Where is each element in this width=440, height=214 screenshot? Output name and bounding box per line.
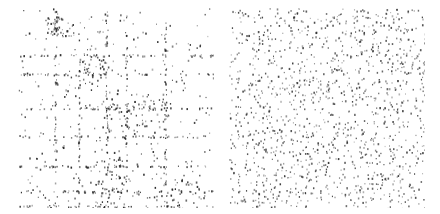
nonzero-entry: [321, 27, 323, 29]
nonzero-entry: [345, 196, 346, 197]
nonzero-entry: [286, 170, 287, 171]
nonzero-entry: [306, 118, 308, 120]
nonzero-entry: [235, 147, 236, 149]
nonzero-entry: [386, 127, 387, 128]
nonzero-entry: [408, 72, 409, 74]
nonzero-entry: [312, 132, 313, 134]
nonzero-entry: [95, 108, 96, 110]
nonzero-entry: [289, 119, 290, 120]
nonzero-entry: [412, 56, 413, 57]
nonzero-entry: [350, 134, 351, 136]
nonzero-entry: [343, 54, 344, 55]
nonzero-entry: [272, 88, 273, 90]
nonzero-entry: [127, 56, 128, 57]
nonzero-entry: [362, 40, 363, 41]
nonzero-entry: [279, 191, 281, 193]
nonzero-entry: [52, 95, 53, 96]
nonzero-entry: [246, 148, 247, 149]
nonzero-entry: [379, 107, 381, 109]
nonzero-entry: [392, 66, 393, 67]
nonzero-entry: [157, 158, 158, 160]
nonzero-entry: [97, 80, 98, 82]
nonzero-entry: [383, 25, 385, 27]
nonzero-entry: [121, 75, 122, 76]
nonzero-entry: [163, 137, 164, 138]
nonzero-entry: [119, 178, 120, 179]
nonzero-entry: [389, 163, 390, 165]
nonzero-entry: [381, 184, 382, 186]
nonzero-entry: [275, 97, 276, 98]
nonzero-entry: [305, 79, 306, 80]
nonzero-entry: [330, 21, 331, 23]
nonzero-entry: [93, 55, 94, 57]
nonzero-entry: [76, 75, 77, 77]
nonzero-entry: [187, 181, 188, 183]
nonzero-entry: [258, 31, 260, 33]
nonzero-entry: [292, 63, 293, 65]
nonzero-entry: [76, 207, 77, 208]
nonzero-entry: [295, 90, 296, 91]
nonzero-entry: [56, 82, 58, 84]
nonzero-entry: [85, 83, 86, 84]
nonzero-entry: [146, 205, 147, 206]
nonzero-entry: [199, 109, 200, 111]
nonzero-entry: [346, 21, 347, 23]
nonzero-entry: [253, 134, 254, 136]
nonzero-entry: [105, 20, 107, 22]
nonzero-entry: [152, 69, 154, 71]
nonzero-entry: [99, 59, 100, 61]
nonzero-entry: [365, 202, 366, 204]
nonzero-entry: [303, 126, 305, 128]
nonzero-entry: [148, 94, 149, 96]
nonzero-entry: [413, 145, 414, 147]
nonzero-entry: [310, 45, 311, 46]
nonzero-entry: [408, 29, 409, 31]
sparsity-plot-structured: [18, 8, 214, 208]
nonzero-entry: [399, 93, 401, 95]
nonzero-entry: [92, 109, 93, 110]
nonzero-entry: [317, 149, 319, 151]
nonzero-entry: [255, 130, 256, 132]
nonzero-entry: [312, 37, 313, 39]
nonzero-entry: [139, 108, 140, 110]
nonzero-entry: [249, 63, 251, 65]
nonzero-entry: [164, 201, 165, 202]
nonzero-entry: [124, 115, 125, 117]
nonzero-entry: [125, 118, 126, 120]
nonzero-entry: [362, 16, 363, 17]
nonzero-entry: [337, 16, 338, 17]
nonzero-entry: [359, 147, 360, 149]
nonzero-entry: [39, 191, 40, 193]
nonzero-entry: [197, 186, 199, 188]
nonzero-entry: [405, 201, 406, 203]
nonzero-entry: [97, 162, 98, 164]
nonzero-entry: [306, 137, 307, 138]
nonzero-entry: [123, 184, 124, 186]
nonzero-entry: [354, 202, 355, 203]
nonzero-entry: [101, 160, 103, 162]
nonzero-entry: [109, 158, 110, 159]
nonzero-entry: [353, 127, 354, 129]
nonzero-entry: [348, 150, 349, 151]
nonzero-entry: [119, 198, 120, 199]
nonzero-entry: [412, 9, 413, 11]
nonzero-entry: [204, 151, 205, 153]
nonzero-entry: [375, 98, 377, 100]
nonzero-entry: [21, 114, 22, 116]
nonzero-entry: [156, 24, 157, 25]
nonzero-entry: [257, 102, 258, 104]
nonzero-entry: [161, 190, 162, 192]
nonzero-entry: [299, 9, 300, 10]
nonzero-entry: [129, 55, 130, 56]
nonzero-entry: [135, 46, 136, 47]
nonzero-entry: [142, 120, 143, 121]
nonzero-entry: [103, 101, 104, 103]
nonzero-entry: [166, 27, 167, 28]
nonzero-entry: [391, 199, 392, 201]
nonzero-entry: [311, 158, 313, 160]
nonzero-entry: [164, 153, 166, 155]
nonzero-entry: [58, 29, 59, 30]
nonzero-entry: [323, 108, 324, 109]
nonzero-entry: [163, 99, 164, 101]
nonzero-entry: [117, 206, 118, 207]
